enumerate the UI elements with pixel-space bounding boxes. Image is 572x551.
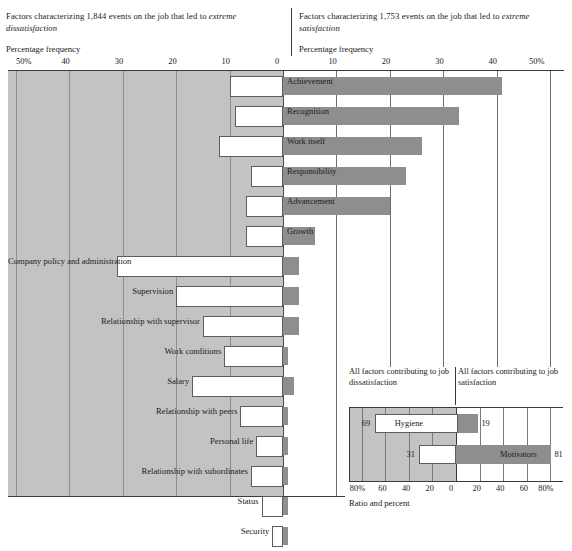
- row-label: Recognition: [287, 105, 329, 117]
- bar-row: Achievement: [8, 71, 564, 101]
- row-value-box: [272, 526, 283, 547]
- bar-row: Work itself: [8, 131, 564, 161]
- bar-satisfaction: [283, 377, 294, 395]
- bar-row: Relationship with supervisor: [8, 311, 564, 341]
- row-value-box: [240, 406, 283, 427]
- left-header-line1: Factors characterizing 1,844 events on t…: [6, 11, 207, 21]
- bar-row: Responsibility: [8, 161, 564, 191]
- header-divider: [291, 8, 292, 56]
- row-label: Advancement: [287, 195, 335, 207]
- inset-tick-20-5: 20: [473, 484, 481, 494]
- bar-satisfaction: [283, 347, 288, 365]
- inset-caption-left: All factors contributing to job dissatis…: [349, 367, 454, 388]
- left-panel-header: Factors characterizing 1,844 events on t…: [6, 11, 281, 34]
- inset-tick-0-4: 0: [449, 484, 453, 494]
- row-value-box: [203, 316, 283, 337]
- row-label: Relationship with subordinates: [8, 465, 248, 477]
- row-label: Achievement: [287, 75, 333, 87]
- inset-value-left: 69: [362, 418, 370, 429]
- bar-satisfaction: [283, 437, 288, 455]
- inset-caption-right: All factors contributing to job satisfac…: [458, 367, 563, 388]
- row-label: Relationship with supervisor: [8, 315, 200, 327]
- inset-tick-60-7: 60: [520, 484, 528, 494]
- inset-value-right: 81: [554, 449, 562, 460]
- inset-axis-caption: Ratio and percent: [349, 498, 410, 509]
- right-axis-title: Percentage frequency: [299, 44, 373, 55]
- row-label: Relationship with peers: [8, 405, 237, 417]
- inset-plot-area: Hygiene6919Motivators3181: [349, 407, 563, 482]
- tick-label-left-50pct: 50%: [16, 57, 31, 66]
- row-label: Salary: [8, 375, 189, 387]
- tick-label-left-40: 40: [61, 57, 69, 66]
- row-label: Work itself: [287, 135, 325, 147]
- tick-label-left-0: 0: [275, 57, 279, 66]
- bar-row: Advancement: [8, 191, 564, 221]
- row-label: Responsibility: [287, 165, 337, 177]
- bar-satisfaction: [283, 527, 288, 545]
- row-value-box: [224, 346, 283, 367]
- tick-label-right-30: 30: [435, 57, 443, 66]
- inset-bar-label: Hygiene: [395, 418, 423, 429]
- bar-row: Company policy and administration: [8, 251, 564, 281]
- inset-value-right: 19: [481, 418, 489, 429]
- inset-tick-80pct-8: 80%: [538, 484, 553, 494]
- tick-label-left-10: 10: [222, 57, 230, 66]
- row-value-box: [251, 466, 283, 487]
- inset-tick-40-6: 40: [496, 484, 504, 494]
- tick-label-right-50pct: 50%: [529, 57, 544, 66]
- bar-row: Supervision: [8, 281, 564, 311]
- row-value-box: [251, 166, 283, 187]
- row-value-box: [230, 76, 283, 97]
- bar-satisfaction: [283, 497, 288, 515]
- row-label: Status: [8, 495, 259, 507]
- row-value-box: [192, 376, 283, 397]
- bar-satisfaction: [283, 287, 299, 305]
- left-axis-title: Percentage frequency: [6, 44, 80, 55]
- row-label: Personal life: [8, 435, 253, 447]
- row-value-box: [246, 196, 283, 217]
- right-header-line1: Factors characterizing 1,753 events on t…: [299, 11, 500, 21]
- row-label: Growth: [287, 225, 313, 237]
- bar-satisfaction: [283, 467, 288, 485]
- inset-bar-white-motivators: [419, 445, 456, 464]
- right-panel-header: Factors characterizing 1,753 events on t…: [299, 11, 567, 34]
- row-value-box: [246, 226, 283, 247]
- inset-bar-label: Motivators: [500, 449, 537, 460]
- bar-satisfaction: [283, 407, 288, 425]
- inset-tick-60-1: 60: [378, 484, 386, 494]
- bar-satisfaction: [283, 317, 299, 335]
- tick-label-left-20: 20: [168, 57, 176, 66]
- row-value-box: [256, 436, 283, 457]
- row-value-box: [219, 136, 283, 157]
- row-value-box: [117, 256, 283, 277]
- inset-value-left: 31: [406, 449, 414, 460]
- bar-row: Security: [8, 521, 564, 551]
- row-label: Work conditions: [8, 345, 221, 357]
- row-label: Company policy and administration: [8, 255, 114, 267]
- bar-row: Growth: [8, 221, 564, 251]
- bar-row: Recognition: [8, 101, 564, 131]
- tick-label-right-20: 20: [382, 57, 390, 66]
- row-label: Supervision: [8, 285, 173, 297]
- row-label: Security: [8, 525, 269, 537]
- summary-inset: All factors contributing to job dissatis…: [345, 367, 566, 511]
- tick-label-right-10: 10: [328, 57, 336, 66]
- row-value-box: [235, 106, 283, 127]
- inset-caption-divider: [455, 367, 456, 405]
- row-value-box: [176, 286, 283, 307]
- bar-satisfaction: [283, 257, 299, 275]
- tick-label-left-30: 30: [115, 57, 123, 66]
- row-value-box: [262, 496, 283, 517]
- inset-tick-40-2: 40: [402, 484, 410, 494]
- inset-tick-20-3: 20: [425, 484, 433, 494]
- tick-label-right-40: 40: [489, 57, 497, 66]
- inset-tick-80pct-0: 80%: [350, 484, 365, 494]
